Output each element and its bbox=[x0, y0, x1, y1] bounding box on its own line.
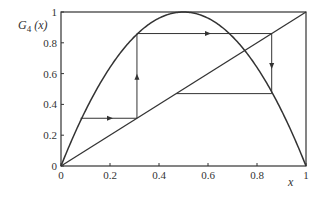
x-tick-label: 1 bbox=[303, 169, 309, 181]
x-tick-label: 0.6 bbox=[201, 169, 215, 181]
y-tick-label: 0.2 bbox=[43, 129, 57, 141]
y-tick-label: 0 bbox=[52, 160, 58, 172]
x-tick-label: 0.2 bbox=[103, 169, 117, 181]
arrow-right-icon bbox=[205, 31, 211, 36]
diagonal-line bbox=[61, 12, 306, 166]
x-axis-title: x bbox=[287, 175, 294, 189]
x-tick-label: 0 bbox=[58, 169, 64, 181]
y-tick-label: 0.8 bbox=[43, 37, 57, 49]
y-axis-title: G4 (x) bbox=[18, 18, 48, 34]
y-tick-label: 0.4 bbox=[43, 98, 57, 110]
y-tick-label: 0.6 bbox=[43, 68, 57, 80]
arrow-right-icon bbox=[107, 116, 113, 121]
arrow-down-icon bbox=[269, 63, 274, 69]
x-tick-label: 0.4 bbox=[152, 169, 166, 181]
arrow-up-icon bbox=[134, 74, 139, 80]
x-tick-label: 0.8 bbox=[250, 169, 264, 181]
y-tick-label: 1 bbox=[52, 6, 58, 18]
cobweb-path bbox=[81, 34, 272, 119]
chart: 00.20.40.60.8100.20.40.60.81 G4 (x) x bbox=[0, 0, 325, 197]
